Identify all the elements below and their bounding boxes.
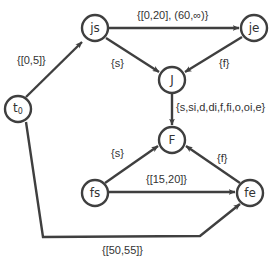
node-label-J: J [169,73,174,87]
edge-je-J: {f} [185,37,242,72]
edge-label-fs-fe: {[15,20]} [146,173,187,185]
edge-label-fe-F: {f} [217,152,228,164]
node-J: J [159,67,185,93]
node-fe: fe [237,180,263,206]
edge-label-fs-F: {s} [111,147,124,159]
edge-label-J-F: {s,si,d,di,f,fi,o,oi,e} [176,101,266,113]
edge-fs-fe: {[15,20]} [109,173,235,192]
node-label-F: F [169,133,176,147]
edge-fe-F: {f} [186,146,240,183]
edge-label-je-J: {f} [219,57,230,69]
edge-t0-fe: {[50,55]} [26,122,240,256]
arrow-t0-fe [26,122,240,237]
arrow-fe-F [186,146,240,183]
arrow-je-J [185,37,242,72]
node-fs: fs [82,180,108,206]
edge-t0-js: {[0,5]} [17,42,82,97]
constraint-graph: {[0,5]} {[0,20], (60,∞)} {s} {f} {s,si,d… [0,0,277,262]
arrow-t0-js [26,42,82,97]
edge-J-F: {s,si,d,di,f,fi,o,oi,e} [172,93,266,125]
edge-label-js-J: {s} [111,57,124,69]
node-label-je: je [248,21,260,35]
edge-js-J: {s} [106,38,159,72]
edge-label-js-je: {[0,20], (60,∞)} [137,9,209,21]
node-t0: t0 [5,96,31,122]
node-label-js: js [89,21,100,35]
edge-js-je: {[0,20], (60,∞)} [109,9,239,28]
node-F: F [159,127,185,153]
node-js: js [82,15,108,41]
node-label-fe: fe [244,186,256,200]
edge-label-t0-fe: {[50,55]} [102,244,143,256]
node-label-fs: fs [90,186,100,200]
node-je: je [241,15,267,41]
edge-label-t0-js: {[0,5]} [17,54,46,66]
